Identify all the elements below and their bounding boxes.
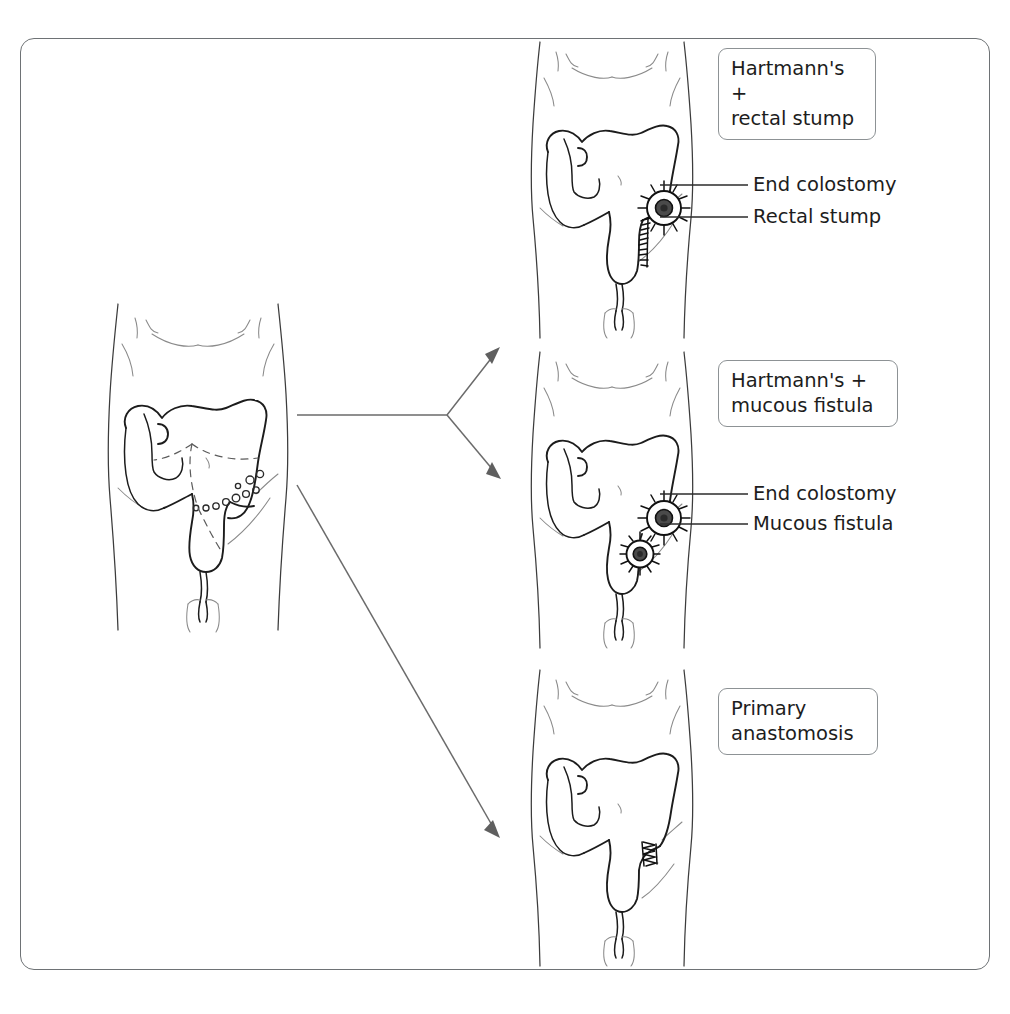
callout-leaders-panel-2 [660,470,760,550]
torso-outline [531,670,693,966]
mucous-fistula-stoma [620,532,660,575]
callout-label-mucous-fistula: Mucous fistula [753,512,893,536]
colon-continuous-anastomosed [547,754,679,966]
colon-normal [125,400,267,632]
branch-arrows [295,330,525,850]
resection-dashed-lines [154,444,258,552]
source-torso-illustration [88,302,308,632]
anastomosis-suture-line [642,842,657,866]
colon-with-end-colostomy [547,436,679,648]
tag-hartmann-rectal-stump: Hartmann's + rectal stump [718,48,876,140]
callout-label-rectal-stump: Rectal stump [753,205,881,229]
arrow-to-panel-3 [297,485,500,838]
callout-leaders-panel-1 [660,160,760,240]
arrow-to-panel-1 [297,347,500,415]
torso-outline [108,304,288,630]
tag-hartmann-mucous-fistula: Hartmann's + mucous fistula [718,360,898,427]
panel-primary-anastomosis-illustration [512,668,712,968]
callout-label-end-colostomy-2: End colostomy [753,482,897,506]
callout-label-end-colostomy-1: End colostomy [753,173,897,197]
tag-primary-anastomosis: Primary anastomosis [718,688,878,755]
colon-with-end-colostomy [547,126,679,338]
arrow-to-panel-2 [447,415,501,479]
diverticula-cluster [193,470,263,511]
